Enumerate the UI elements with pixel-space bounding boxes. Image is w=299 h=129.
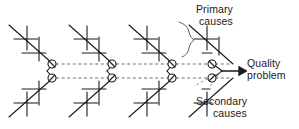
primary-branch-2-upper (69, 25, 113, 64)
primary-branch-4-upper (189, 25, 233, 64)
label-quality-problem-line1: Quality (247, 57, 286, 69)
primary-branch-3-upper (129, 25, 173, 64)
label-primary-causes-line2: causes (196, 15, 233, 27)
secondary-callout-b (194, 72, 221, 86)
secondary-branch-3-lower (129, 78, 173, 117)
spine-arrow (222, 67, 247, 76)
label-secondary-causes-line2: causes (196, 107, 247, 119)
secondary-branch-2-lower (69, 78, 113, 117)
intersection-nodes (48, 60, 216, 82)
primary-branch-1-upper (9, 25, 53, 64)
label-quality-problem-line2: problem (247, 69, 286, 81)
secondary-branch-1-lower (9, 78, 53, 117)
label-quality-problem: Quality problem (247, 57, 286, 81)
label-secondary-causes: Secondary causes (196, 95, 247, 119)
dashed-linkage-lines (56, 64, 230, 78)
label-primary-causes: Primary causes (196, 3, 233, 27)
label-primary-causes-line1: Primary (196, 3, 233, 15)
fishbone-diagram-canvas: Primary causes Quality problem Secondary… (0, 0, 299, 129)
label-secondary-causes-line1: Secondary (196, 95, 247, 107)
